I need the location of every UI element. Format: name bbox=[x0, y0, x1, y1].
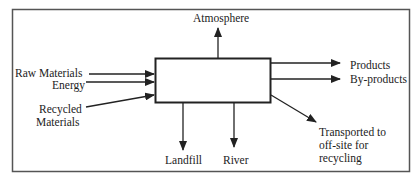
process-box bbox=[156, 59, 271, 103]
landfill-label: Landfill bbox=[165, 154, 202, 167]
byproducts-label: By-products bbox=[350, 73, 407, 86]
atmosphere-label: Atmosphere bbox=[193, 12, 249, 25]
products-label: Products bbox=[350, 59, 390, 72]
recycled-arrow bbox=[86, 95, 154, 107]
transport-label-1: Transported to bbox=[319, 126, 386, 139]
materials-label: Materials bbox=[36, 116, 79, 129]
energy-label: Energy bbox=[52, 79, 85, 92]
transport-label-2: off-site for bbox=[319, 139, 368, 152]
transport-arrow bbox=[271, 95, 316, 122]
transport-label-3: recycling bbox=[319, 152, 362, 165]
river-label: River bbox=[223, 154, 249, 167]
recycled-label: Recycled bbox=[39, 103, 82, 116]
